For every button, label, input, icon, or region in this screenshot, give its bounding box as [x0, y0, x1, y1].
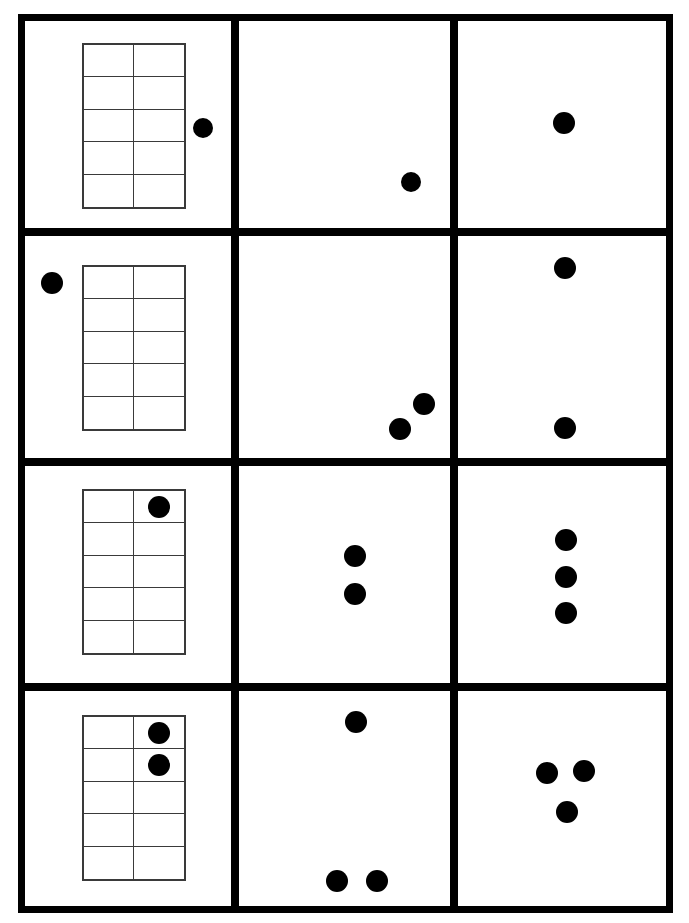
ten-frame-cell-5[interactable] — [84, 556, 134, 588]
ten-frame-cell-2[interactable] — [134, 491, 184, 523]
ten-frame-cell-9[interactable] — [84, 397, 134, 429]
row-divider-1 — [18, 228, 673, 236]
ten-frame-cell-4[interactable] — [134, 749, 184, 781]
ten-frame-cell-9[interactable] — [84, 621, 134, 653]
ten-frame-cell-5[interactable] — [84, 332, 134, 364]
counter-r4c2-1[interactable] — [345, 711, 367, 733]
counter-r4c3-1[interactable] — [536, 762, 558, 784]
counter-r4c2-2[interactable] — [326, 870, 348, 892]
counter-r2c1-1[interactable] — [41, 272, 63, 294]
ten-frame-cell-10[interactable] — [134, 175, 184, 207]
ten-frame-cell-6[interactable] — [134, 332, 184, 364]
counter-r3c3-3[interactable] — [555, 602, 577, 624]
counter-r3c2-2[interactable] — [344, 583, 366, 605]
ten-frame-cell-7[interactable] — [84, 142, 134, 174]
ten-frame-cell-6[interactable] — [134, 782, 184, 814]
ten-frame-cell-9[interactable] — [84, 175, 134, 207]
ten-frame-cell-2[interactable] — [134, 717, 184, 749]
ten-frame-row-2 — [82, 265, 186, 431]
counter-r2c3-1[interactable] — [554, 257, 576, 279]
ten-frame-cell-10[interactable] — [134, 397, 184, 429]
ten-frame-cell-6[interactable] — [134, 556, 184, 588]
ten-frame-cell-8[interactable] — [134, 588, 184, 620]
ten-frame-cell-1[interactable] — [84, 491, 134, 523]
counter-r2c2-1[interactable] — [413, 393, 435, 415]
counter-r1c3-1[interactable] — [553, 112, 575, 134]
worksheet-page — [0, 0, 689, 923]
ten-frame-cell-7[interactable] — [84, 588, 134, 620]
ten-frame-counter-2[interactable] — [148, 496, 170, 518]
ten-frame-cell-6[interactable] — [134, 110, 184, 142]
ten-frame-cell-8[interactable] — [134, 364, 184, 396]
ten-frame-cell-2[interactable] — [134, 267, 184, 299]
counter-r2c3-2[interactable] — [554, 417, 576, 439]
ten-frame-cell-2[interactable] — [134, 45, 184, 77]
ten-frame-cell-10[interactable] — [134, 621, 184, 653]
ten-frame-cell-1[interactable] — [84, 45, 134, 77]
ten-frame-cell-7[interactable] — [84, 814, 134, 846]
ten-frame-cell-8[interactable] — [134, 142, 184, 174]
ten-frame-cell-3[interactable] — [84, 523, 134, 555]
ten-frame-cell-4[interactable] — [134, 523, 184, 555]
counter-r3c3-1[interactable] — [555, 529, 577, 551]
ten-frame-counter-4[interactable] — [148, 754, 170, 776]
ten-frame-cell-8[interactable] — [134, 814, 184, 846]
ten-frame-cell-7[interactable] — [84, 364, 134, 396]
ten-frame-row-3 — [82, 489, 186, 655]
ten-frame-cell-1[interactable] — [84, 267, 134, 299]
counter-r3c2-1[interactable] — [344, 545, 366, 567]
ten-frame-cell-4[interactable] — [134, 299, 184, 331]
ten-frame-counter-2[interactable] — [148, 722, 170, 744]
ten-frame-cell-3[interactable] — [84, 299, 134, 331]
row-divider-2 — [18, 458, 673, 466]
ten-frame-cell-4[interactable] — [134, 77, 184, 109]
ten-frame-cell-10[interactable] — [134, 847, 184, 879]
ten-frame-cell-3[interactable] — [84, 77, 134, 109]
counter-r1c1-1[interactable] — [193, 118, 213, 138]
counter-r2c2-2[interactable] — [389, 418, 411, 440]
ten-frame-row-4 — [82, 715, 186, 881]
ten-frame-cell-5[interactable] — [84, 782, 134, 814]
counter-r4c2-3[interactable] — [366, 870, 388, 892]
ten-frame-cell-9[interactable] — [84, 847, 134, 879]
ten-frame-cell-5[interactable] — [84, 110, 134, 142]
ten-frame-row-1 — [82, 43, 186, 209]
ten-frame-cell-1[interactable] — [84, 717, 134, 749]
counter-r4c3-2[interactable] — [573, 760, 595, 782]
counter-r4c3-3[interactable] — [556, 801, 578, 823]
counter-r1c2-1[interactable] — [401, 172, 421, 192]
row-divider-3 — [18, 683, 673, 691]
counter-r3c3-2[interactable] — [555, 566, 577, 588]
ten-frame-cell-3[interactable] — [84, 749, 134, 781]
